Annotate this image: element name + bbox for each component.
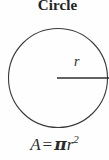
exponent-two: 2 [73, 133, 79, 145]
circle-figure-card: Circle r A=πr2 [0, 0, 109, 160]
area-formula: A=πr2 [0, 133, 109, 156]
figure-title: Circle [0, 0, 109, 14]
circle-diagram [0, 22, 109, 132]
pi-symbol: π [54, 134, 66, 154]
radius-label: r [74, 55, 79, 69]
area-symbol: A [30, 135, 40, 154]
equals-sign: = [41, 135, 55, 154]
